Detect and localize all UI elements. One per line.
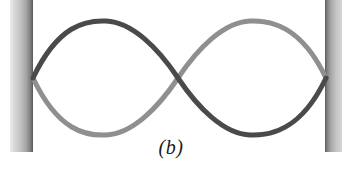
standing-wave-figure: (b) [0,0,342,170]
wave-curve-dark [33,21,326,135]
figure-caption: (b) [0,136,342,159]
left-wall [10,0,33,152]
